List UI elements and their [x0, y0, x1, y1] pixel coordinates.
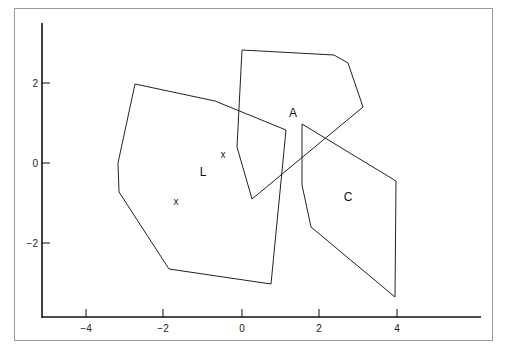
region-C-polygon — [302, 124, 396, 297]
region-L-polygon — [118, 84, 286, 284]
region-L-label: L — [200, 165, 207, 179]
region-A-label: A — [289, 106, 297, 120]
region-C-label: C — [344, 190, 353, 204]
x-tick-label: 2 — [316, 323, 322, 334]
x-tick-label: −2 — [157, 323, 169, 334]
y-tick-label: 0 — [32, 158, 38, 169]
region-A-polygon — [237, 50, 363, 199]
y-ticks — [42, 83, 50, 243]
x-tick-label: −4 — [80, 323, 92, 334]
y-tick-label: 2 — [32, 78, 38, 89]
x-marker: x — [174, 196, 179, 207]
x-ticks — [86, 309, 397, 317]
x-tick-label: 0 — [239, 323, 245, 334]
y-tick-label: −2 — [27, 238, 39, 249]
x-tick-label: 4 — [394, 323, 400, 334]
chart-canvas: 2 0 −2 −4 −2 0 2 4 L A C x x — [0, 0, 505, 361]
x-marker: x — [221, 149, 226, 160]
